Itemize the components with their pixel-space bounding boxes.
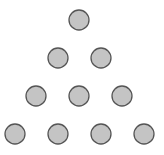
circle-row1-0 bbox=[69, 10, 89, 30]
circle-row2-1 bbox=[48, 48, 68, 68]
triangle-circle-diagram bbox=[0, 0, 164, 155]
circle-row4-6 bbox=[5, 124, 25, 144]
circle-row3-4 bbox=[69, 86, 89, 106]
circle-row4-9 bbox=[134, 124, 154, 144]
circle-row3-5 bbox=[112, 86, 132, 106]
circle-row2-2 bbox=[91, 48, 111, 68]
circle-row3-3 bbox=[26, 86, 46, 106]
circle-row4-7 bbox=[48, 124, 68, 144]
circle-row4-8 bbox=[91, 124, 111, 144]
